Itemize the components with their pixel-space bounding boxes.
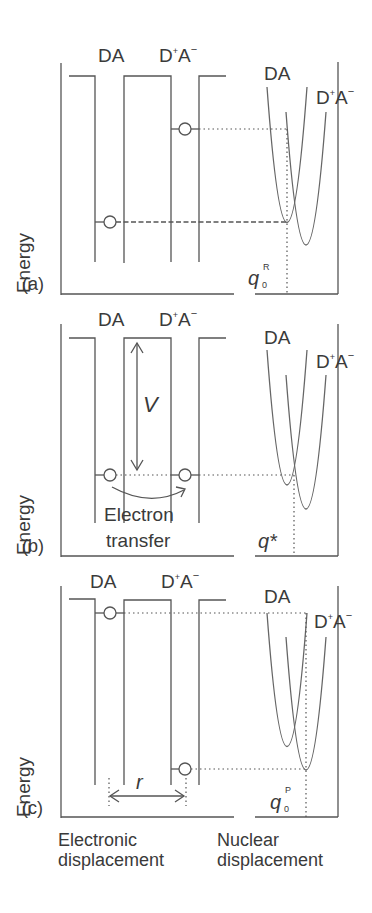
panel-b-well-label-DA: DA	[98, 309, 125, 330]
svg-text:P: P	[285, 785, 291, 795]
panel-b-coupling-label: V	[143, 392, 160, 417]
panel-a-acceptor-level-circle	[179, 123, 191, 135]
svg-text:R: R	[263, 262, 270, 272]
panel-c-donor-level-circle	[104, 607, 116, 619]
panel-c-curve-label-DA: DA	[264, 586, 291, 607]
svg-text:D+A−: D+A−	[316, 349, 354, 372]
panel-c-well-label-DpAm: D+A−	[161, 569, 199, 592]
x-axis-label-electronic: Electronic displacement	[58, 830, 164, 870]
svg-text:D+A−: D+A−	[314, 609, 352, 632]
panel-b-coord-label: q*	[258, 530, 278, 552]
panel-b-donor-well-left-wall	[69, 338, 95, 523]
panel-a-curve-label-DA: DA	[264, 63, 291, 84]
panel-a-product-parabola	[286, 112, 326, 245]
panel-a-donor-well-left-wall	[69, 76, 95, 262]
panel-c-curve-label-DpAm: D+A−	[314, 609, 352, 632]
panel-c-distance-label: r	[136, 771, 144, 793]
panel-b-acceptor-well-right-wall	[199, 338, 226, 523]
panel-a: DA D+A− DA D+A− Energy (a) q 0 R	[13, 43, 354, 295]
x-axis-label-electronic-line2: displacement	[58, 850, 164, 870]
panel-a-barrier	[124, 76, 171, 263]
x-axis-label-electronic-line1: Electronic	[58, 830, 164, 850]
svg-text:q: q	[270, 791, 281, 813]
panel-c-barrier	[124, 600, 171, 785]
panel-b-electron-transfer-arrow	[112, 487, 184, 498]
svg-text:D+A−: D+A−	[316, 85, 354, 108]
panel-c-well-label-DA: DA	[90, 571, 117, 592]
x-axis-label-nuclear-line2: displacement	[217, 850, 323, 870]
panel-c-donor-well-left-wall	[69, 599, 95, 785]
panel-b-transfer-label-line1: Electron	[104, 504, 174, 525]
panel-b-curve-label-DpAm: D+A−	[316, 349, 354, 372]
panel-b: V Electron transfer DA D+A− DA D+A− Ener…	[13, 307, 354, 557]
panel-b-well-label-DpAm: D+A−	[159, 307, 197, 330]
panel-a-acceptor-well-right-wall	[199, 76, 226, 262]
panel-c-acceptor-well-right-wall	[199, 600, 226, 785]
panel-c-acceptor-electron-circle	[179, 763, 191, 775]
svg-text:D+A−: D+A−	[159, 43, 197, 66]
x-axis-label-nuclear: Nuclear displacement	[217, 830, 323, 870]
svg-text:D+A−: D+A−	[161, 569, 199, 592]
panel-c-label: (c)	[22, 798, 43, 818]
svg-text:0: 0	[262, 280, 267, 290]
panel-a-donor-electron-circle	[104, 216, 116, 228]
panel-a-well-label-DA: DA	[98, 45, 125, 66]
electron-transfer-diagram: DA D+A− DA D+A− Energy (a) q 0 R V	[0, 0, 372, 913]
svg-text:D+A−: D+A−	[159, 307, 197, 330]
panel-c-reactant-parabola	[267, 613, 307, 747]
panel-b-transfer-label-line2: transfer	[106, 530, 171, 551]
panel-b-reactant-parabola	[267, 350, 307, 485]
panel-a-well-label-DpAm: D+A−	[159, 43, 197, 66]
x-axis-label-nuclear-line1: Nuclear	[217, 830, 323, 850]
panel-c-coord-label: q 0 P	[270, 785, 291, 814]
svg-text:q: q	[248, 267, 259, 289]
panel-a-coord-label: q 0 R	[248, 262, 270, 290]
panel-a-label: (a)	[22, 274, 44, 294]
panel-b-acceptor-level-circle	[179, 469, 191, 481]
svg-text:0: 0	[284, 804, 289, 814]
panel-b-curve-label-DA: DA	[264, 327, 291, 348]
panel-c: r DA D+A− DA D+A− Energy (c) q 0 P	[13, 569, 352, 818]
panel-b-label: (b)	[22, 536, 44, 556]
panel-b-product-parabola	[286, 375, 326, 509]
panel-b-donor-level-circle	[104, 469, 116, 481]
panel-a-curve-label-DpAm: D+A−	[316, 85, 354, 108]
